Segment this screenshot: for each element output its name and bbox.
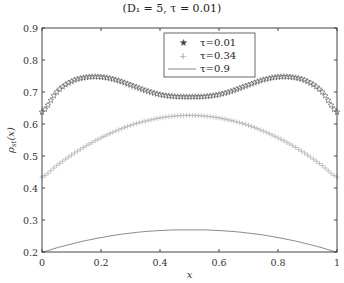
plus-marker [208,114,213,119]
plus-marker [48,168,53,173]
plus-marker [219,116,224,121]
plus-marker [146,118,151,123]
star-marker-icon: ★ [179,37,188,48]
star-marker [63,82,69,87]
plus-marker [140,119,145,124]
plus-marker [317,161,322,166]
legend-item-tau-0-01: ★ τ=0.01 [179,37,237,48]
plus-marker [60,159,65,164]
plus-marker [149,117,154,122]
star-marker [308,80,314,85]
plus-marker [57,161,62,166]
star-marker [51,93,57,98]
svg-text:ρst(x): ρst(x) [5,127,18,154]
series---0-9 [42,230,337,252]
plus-marker [163,114,168,119]
star-marker [48,97,54,102]
plus-marker [158,115,163,120]
x-tick-label: 0.6 [211,257,226,268]
plus-marker [267,131,272,136]
plus-marker [155,116,160,121]
plus-marker [222,117,227,122]
plus-marker [252,125,257,130]
plus-marker [214,115,219,120]
plus-marker [54,163,59,168]
y-tick-label: 0.6 [23,119,38,130]
plus-marker [326,168,331,173]
plus-marker [160,115,165,120]
plus-marker [329,171,334,176]
x-tick-label: 0.2 [93,257,108,268]
plus-marker [231,119,236,124]
plus-marker [137,120,142,125]
plus-marker [122,125,127,130]
x-tick-label: 1 [334,257,340,268]
star-marker [45,102,51,107]
plus-marker [110,130,115,135]
plus-marker [323,166,328,171]
plus-marker [45,171,50,176]
plus-marker [228,118,233,123]
plus-marker [237,120,242,125]
plus-marker [128,123,133,128]
x-tick-label: 0.8 [270,257,285,268]
series-layer [39,74,340,252]
plus-marker [217,115,222,120]
plus-marker [113,129,118,134]
chart-canvas: 00.20.40.60.810.20.30.40.50.60.70.80.9 x… [0,0,344,283]
plus-marker [143,119,148,124]
plus-marker [264,130,269,135]
series---0-01 [39,74,340,115]
series---0-34 [40,113,340,180]
plus-marker [261,129,266,134]
star-marker [54,89,60,94]
legend-label: τ=0.34 [200,50,236,61]
plus-marker [152,117,157,122]
series-line [42,230,337,252]
legend-label: τ=0.01 [200,37,236,48]
plus-marker [51,166,56,171]
y-tick-label: 0.7 [23,87,38,98]
plus-marker [134,121,139,126]
y-tick-label: 0.9 [23,23,38,34]
star-marker [328,102,334,107]
y-tick-label: 0.5 [23,151,38,162]
y-tick-label: 0.3 [23,215,38,226]
plus-marker [246,123,251,128]
plus-marker-icon: + [179,50,187,61]
plus-marker [270,132,275,137]
legend-label: τ=0.9 [200,63,230,74]
x-tick-label: 0.4 [152,257,167,268]
plus-marker [131,122,136,127]
star-marker [325,97,331,102]
plus-marker [225,117,230,122]
plus-marker [107,131,112,136]
legend: ★ τ=0.01 + τ=0.34 τ=0.9 [164,33,255,77]
plus-marker [240,121,245,126]
y-tick-label: 0.8 [23,55,38,66]
plus-marker [249,124,254,129]
plus-marker [234,119,239,124]
x-tick-label: 0 [39,257,45,268]
plus-marker [320,163,325,168]
star-marker [322,93,328,98]
plus-marker [255,126,260,131]
plus-marker [125,124,130,129]
x-axis-label: x [187,269,193,280]
y-tick-label: 0.4 [23,183,38,194]
y-tick-label: 0.2 [23,247,38,258]
plus-marker [314,159,319,164]
star-marker [311,82,317,87]
star-marker [319,89,325,94]
plus-marker [211,114,216,119]
plus-marker [104,132,109,137]
plus-marker [116,127,121,132]
plus-marker [243,122,248,127]
plus-marker [258,127,263,132]
plus-marker [119,126,124,131]
y-axis-label: ρst(x) [5,127,18,154]
